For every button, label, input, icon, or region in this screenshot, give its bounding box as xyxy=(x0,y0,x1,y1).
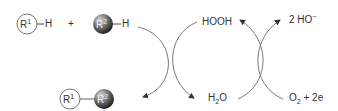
product-r2-label: R2 xyxy=(97,93,108,105)
r1-label: R1 xyxy=(20,18,31,30)
r2-h-label: H xyxy=(122,18,129,29)
hydroxide-label: 2 HO− xyxy=(289,13,316,25)
hooh-label: HOOH xyxy=(202,16,232,27)
product-r1-label: R1 xyxy=(63,93,74,105)
reaction-diagram xyxy=(0,0,338,111)
oxygen-label: O2 + 2e xyxy=(289,92,323,105)
r2-label: R2 xyxy=(96,18,107,30)
h2o-label: H2O xyxy=(208,92,227,105)
plus-sign: + xyxy=(68,18,74,29)
r1-h-label: H xyxy=(45,18,52,29)
